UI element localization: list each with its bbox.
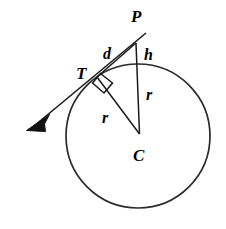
segment-label-r-vertical: r (146, 86, 153, 103)
arrow-head-icon (27, 115, 50, 132)
segment-label-r-tangent: r (102, 109, 109, 126)
geometry-diagram-container: P T C d h r r (0, 0, 226, 229)
point-label-C: C (133, 146, 145, 165)
segment-label-h: h (144, 46, 153, 63)
point-label-P: P (130, 7, 142, 26)
point-label-T: T (76, 64, 87, 83)
tangent-circle-figure: P T C d h r r (0, 0, 226, 229)
tangent-ray (34, 33, 146, 126)
segment-P-to-C (136, 43, 140, 134)
segment-label-d: d (103, 45, 112, 62)
